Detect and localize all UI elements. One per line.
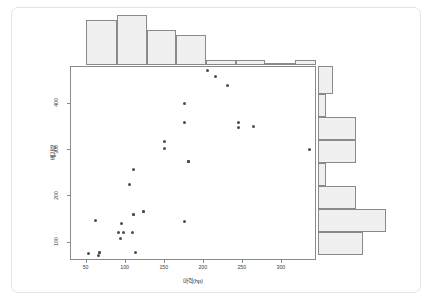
scatter-point [237, 121, 240, 124]
top-marginal-histogram [70, 13, 316, 65]
scatter-point [132, 168, 135, 171]
scatter-point [187, 160, 190, 163]
scatter-point [183, 121, 186, 124]
scatter-point [142, 210, 145, 213]
x-axis-title: 마력(hp) [70, 277, 316, 285]
scatter-point [94, 219, 97, 222]
right-histogram-bar [318, 140, 356, 163]
right-marginal-histogram [318, 66, 390, 260]
y-axis-tick-label: 100 [53, 232, 60, 252]
top-histogram-bar [86, 20, 117, 65]
top-histogram-bar [147, 30, 177, 65]
scatter-point [132, 213, 135, 216]
top-histogram-bar [236, 60, 266, 65]
scatter-point [226, 84, 229, 87]
scatter-point [131, 231, 134, 234]
joint-scatter-plot: 50100150200250300100200300400 마력(hp) 배기량 [0, 0, 433, 303]
scatter-point [119, 237, 122, 240]
right-histogram-bar [318, 94, 326, 117]
x-axis-tick [203, 260, 204, 263]
scatter-point [98, 251, 101, 254]
x-axis-tick [242, 260, 243, 263]
scatter-panel [70, 66, 316, 260]
scatter-point [120, 222, 123, 225]
y-axis-title: 배기량 [49, 132, 57, 172]
top-histogram-bar [206, 60, 236, 65]
scatter-point [214, 75, 217, 78]
x-axis-tick-label: 50 [76, 264, 96, 271]
x-axis-tick-label: 200 [193, 264, 213, 271]
right-histogram-bar [318, 186, 356, 209]
scatter-point [128, 183, 131, 186]
chart-card: 50100150200250300100200300400 마력(hp) 배기량 [0, 0, 433, 303]
scatter-point [122, 231, 125, 234]
y-axis-tick [67, 103, 70, 104]
scatter-point [97, 254, 100, 257]
x-axis-tick [281, 260, 282, 263]
scatter-point [163, 140, 166, 143]
scatter-point [206, 69, 209, 72]
x-axis-tick [86, 260, 87, 263]
x-axis-tick-label: 300 [271, 264, 291, 271]
y-axis-tick [67, 149, 70, 150]
scatter-point [163, 147, 166, 150]
scatter-point [252, 125, 255, 128]
scatter-point [134, 251, 137, 254]
right-histogram-bar [318, 209, 386, 232]
top-histogram-bar [176, 35, 206, 65]
x-axis-tick [125, 260, 126, 263]
right-histogram-bar [318, 117, 356, 140]
scatter-point [237, 126, 240, 129]
top-histogram-bar [117, 15, 147, 65]
x-axis-tick [164, 260, 165, 263]
top-histogram-bar [295, 60, 316, 65]
scatter-point [117, 231, 120, 234]
scatter-point [87, 252, 90, 255]
right-histogram-bar [318, 232, 363, 255]
scatter-point [183, 220, 186, 223]
y-axis-tick-label: 200 [53, 185, 60, 205]
y-axis-tick-label: 400 [53, 93, 60, 113]
y-axis-tick [67, 195, 70, 196]
x-axis-tick-label: 250 [232, 264, 252, 271]
x-axis-tick-label: 150 [154, 264, 174, 271]
top-histogram-bar [265, 63, 295, 65]
right-histogram-bar [318, 163, 326, 186]
y-axis-tick [67, 242, 70, 243]
scatter-point [183, 102, 186, 105]
right-histogram-bar [318, 66, 333, 94]
scatter-point [308, 148, 311, 151]
x-axis-tick-label: 100 [115, 264, 135, 271]
